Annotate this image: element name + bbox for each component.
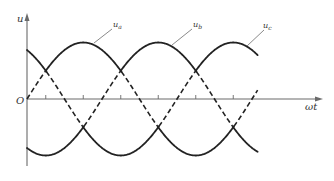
x-axis-label: ωt: [305, 101, 318, 112]
leader-line-uc: [247, 30, 264, 46]
y-axis-arrow-icon: [25, 13, 30, 21]
curve-uc-solid: [83, 126, 159, 155]
waveform-plot: u O ωt ua ub uc: [0, 0, 334, 181]
curve-label-ua: ua: [113, 20, 122, 30]
leader-line-ua: [94, 29, 112, 43]
curve-ua-dashed: [234, 90, 258, 126]
curve-ua-solid: [46, 43, 122, 72]
y-axis-label: u: [17, 13, 23, 24]
curve-ub-solid: [27, 126, 84, 155]
curve-uc-solid: [27, 50, 46, 72]
curve-ub-solid: [121, 43, 197, 72]
origin-label: O: [16, 95, 24, 106]
three-phase-waveform-figure: u O ωt ua ub uc: [0, 0, 334, 181]
curve-ua-solid: [158, 126, 234, 155]
curve-label-ub: ub: [193, 20, 202, 30]
curve-label-uc: uc: [263, 21, 272, 31]
curve-ua-dashed: [27, 71, 46, 99]
curve-ub-solid: [233, 127, 257, 152]
curve-uc-solid: [196, 43, 258, 71]
leader-line-ub: [172, 29, 192, 45]
